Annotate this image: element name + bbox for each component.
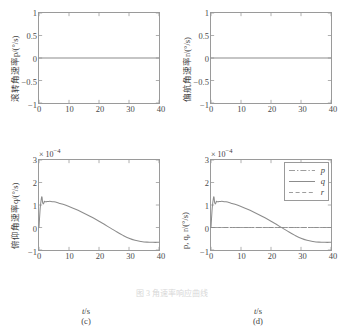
y-axis-label-d: p, q, r/(°/s) bbox=[180, 212, 190, 249]
plot-area-a: −1−0.500.51010203040 bbox=[38, 12, 160, 104]
x-tick-label-c: 30 bbox=[126, 252, 135, 261]
x-tick-label-c: 10 bbox=[65, 252, 74, 261]
subplot-c: × 10−4 −10123010203040 俯仰角速率q/(°/s) t/s … bbox=[0, 147, 172, 295]
y-tick-label-c: 1 bbox=[33, 202, 37, 211]
plot-area-c: × 10−4 −10123010203040 bbox=[38, 159, 160, 251]
data-series-q-d bbox=[211, 197, 331, 243]
y-axis-label-a: 滚转角速率p/(°/s) bbox=[8, 36, 20, 102]
panel-label-d: (d) bbox=[253, 316, 263, 326]
y-tick-label-a: 0 bbox=[33, 55, 37, 64]
y-tick-label-b: 0 bbox=[205, 55, 209, 64]
y-axis-label-c: 俯仰角速率q/(°/s) bbox=[8, 183, 20, 249]
x-tick-label-c: 20 bbox=[96, 252, 105, 261]
x-axis-label-c: t/s bbox=[82, 306, 90, 316]
x-tick-label-b: 0 bbox=[209, 105, 213, 114]
legend-label-p: p bbox=[321, 166, 325, 175]
figure-caption: 图 3 角速率响应曲线 bbox=[0, 287, 344, 298]
panel-label-c: (c) bbox=[81, 316, 90, 326]
y-tick-label-c: −1 bbox=[28, 248, 37, 257]
subplot-b: −1−0.500.51010203040 偏航角速率r/(°/s) t/s (b… bbox=[172, 0, 344, 148]
legend-label-r: r bbox=[321, 188, 324, 197]
y-tick-label-a: 1 bbox=[33, 9, 37, 18]
exponent-power: −4 bbox=[226, 147, 233, 154]
x-tick-label-d: 40 bbox=[329, 252, 338, 261]
x-tick-label-d: 20 bbox=[268, 252, 277, 261]
x-tick-label-d: 30 bbox=[298, 252, 307, 261]
x-tick-label-b: 20 bbox=[268, 105, 277, 114]
y-tick-label-c: 0 bbox=[33, 225, 37, 234]
x-tick-label-a: 0 bbox=[37, 105, 41, 114]
plot-area-b: −1−0.500.51010203040 bbox=[210, 12, 332, 104]
y-axis-exponent-c: × 10−4 bbox=[39, 147, 60, 159]
x-tick-label-b: 30 bbox=[298, 105, 307, 114]
y-tick-label-a: 0.5 bbox=[26, 32, 37, 41]
x-tick-label-c: 0 bbox=[37, 252, 41, 261]
x-axis-unit: /s bbox=[84, 306, 90, 316]
x-axis-unit: /s bbox=[256, 306, 262, 316]
y-axis-label-b: 偏航角速率r/(°/s) bbox=[180, 37, 192, 102]
legend-line-sample-p bbox=[288, 167, 316, 174]
y-tick-label-d: 3 bbox=[205, 156, 209, 165]
y-tick-label-d: 0 bbox=[205, 225, 209, 234]
subplot-a: −1−0.500.51010203040 滚转角速率p/(°/s) t/s (a… bbox=[0, 0, 172, 148]
exponent-power: −4 bbox=[54, 147, 61, 154]
y-tick-label-d: 2 bbox=[205, 179, 209, 188]
legend-line-sample-q bbox=[288, 178, 316, 185]
legend-entry-r: r bbox=[288, 187, 325, 198]
x-tick-label-b: 40 bbox=[329, 105, 338, 114]
series-canvas-c bbox=[39, 160, 159, 250]
y-tick-label-b: 1 bbox=[205, 9, 209, 18]
legend-entry-q: q bbox=[288, 176, 325, 187]
x-tick-label-b: 10 bbox=[237, 105, 246, 114]
y-tick-label-c: 3 bbox=[33, 156, 37, 165]
legend-d: pqr bbox=[284, 162, 329, 201]
legend-entry-p: p bbox=[288, 165, 325, 176]
x-tick-label-a: 30 bbox=[126, 105, 135, 114]
series-canvas-b bbox=[211, 13, 331, 103]
y-tick-label-b: 0.5 bbox=[198, 32, 209, 41]
y-tick-label-a: −0.5 bbox=[22, 78, 37, 87]
x-tick-label-a: 10 bbox=[65, 105, 74, 114]
x-tick-label-a: 20 bbox=[96, 105, 105, 114]
x-axis-label-d: t/s bbox=[254, 306, 262, 316]
data-series-q-c bbox=[39, 197, 159, 243]
y-axis-exponent-d: × 10−4 bbox=[211, 147, 232, 159]
subplot-d: × 10−4 pqr −10123010203040 p, q, r/(°/s)… bbox=[172, 147, 344, 295]
legend-label-q: q bbox=[321, 177, 325, 186]
y-tick-label-c: 2 bbox=[33, 179, 37, 188]
y-tick-label-b: −0.5 bbox=[194, 78, 209, 87]
y-tick-label-a: −1 bbox=[28, 101, 37, 110]
series-canvas-a bbox=[39, 13, 159, 103]
x-tick-label-d: 10 bbox=[237, 252, 246, 261]
x-tick-label-c: 40 bbox=[157, 252, 166, 261]
legend-line-sample-r bbox=[288, 189, 316, 196]
y-tick-label-d: 1 bbox=[205, 202, 209, 211]
x-tick-label-a: 40 bbox=[157, 105, 166, 114]
plot-area-d: × 10−4 pqr −10123010203040 bbox=[210, 159, 332, 251]
y-tick-label-d: −1 bbox=[200, 248, 209, 257]
x-tick-label-d: 0 bbox=[209, 252, 213, 261]
y-tick-label-b: −1 bbox=[200, 101, 209, 110]
